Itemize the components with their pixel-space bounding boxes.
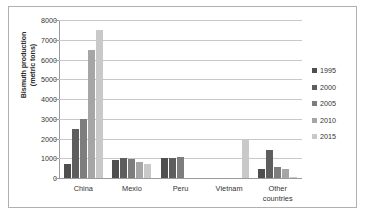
bar: [258, 169, 265, 178]
legend-swatch: [312, 101, 317, 106]
bar: [80, 119, 87, 178]
y-axis-tick-mark: [55, 60, 59, 61]
legend-label: 2010: [320, 116, 336, 125]
x-axis-tick-label: Other: [268, 184, 286, 193]
bar-group: [59, 20, 108, 178]
bar: [266, 150, 273, 178]
legend-swatch: [312, 118, 317, 123]
bar: [64, 164, 71, 178]
bar-group: [205, 20, 254, 178]
y-axis-tick-label: 5000: [17, 75, 57, 84]
bar: [96, 30, 103, 178]
legend-item: 2005: [312, 99, 336, 108]
legend-swatch: [312, 134, 317, 139]
y-axis-tick-label: 0: [17, 174, 57, 183]
legend-label: 2000: [320, 83, 336, 92]
y-axis-tick-label: 1000: [17, 154, 57, 163]
x-axis-tick-label: Peru: [173, 184, 189, 193]
x-axis-tick-label-line2: countries: [263, 194, 293, 203]
legend-swatch: [312, 68, 317, 73]
bar: [128, 159, 135, 178]
y-axis-tick-mark: [55, 40, 59, 41]
legend-label: 1995: [320, 66, 336, 75]
legend-item: 1995: [312, 66, 336, 75]
y-axis-tick-label: 3000: [17, 115, 57, 124]
x-axis-label: China: [59, 184, 108, 194]
x-axis-tick-label: Vietnam: [216, 184, 243, 193]
legend-item: 2015: [312, 132, 336, 141]
bar: [144, 164, 151, 178]
chart-legend: 19952000200520102015: [312, 66, 336, 141]
x-axis-label: Mexio: [108, 184, 157, 194]
bar: [161, 158, 168, 178]
bar-group: [253, 20, 302, 178]
legend-swatch: [312, 85, 317, 90]
bar: [274, 167, 281, 178]
y-axis-tick-mark: [55, 99, 59, 100]
y-axis-tick-mark: [55, 79, 59, 80]
y-axis-tick-mark: [55, 139, 59, 140]
bar-group: [108, 20, 157, 178]
legend-item: 2010: [312, 116, 336, 125]
y-axis-tick-label: 7000: [17, 36, 57, 45]
bar: [88, 50, 95, 178]
bar: [112, 160, 119, 178]
y-axis-tick-label: 8000: [17, 16, 57, 25]
legend-label: 2005: [320, 99, 336, 108]
bar: [290, 177, 297, 178]
y-axis-tick-mark: [55, 158, 59, 159]
x-axis-label: Othercountries: [253, 184, 302, 203]
bar-group: [156, 20, 205, 178]
gridline: [59, 178, 302, 179]
x-axis-label: Vietnam: [205, 184, 254, 194]
bar: [136, 162, 143, 178]
bar: [120, 158, 127, 178]
x-axis-label: Peru: [156, 184, 205, 194]
legend-label: 2015: [320, 132, 336, 141]
y-axis-tick-label: 2000: [17, 135, 57, 144]
legend-item: 2000: [312, 83, 336, 92]
bar: [72, 129, 79, 178]
y-axis-tick-mark: [55, 20, 59, 21]
chart-figure: Bismuth production (metric tons) 1995200…: [0, 0, 365, 221]
plot-area: [59, 20, 302, 178]
bar: [177, 157, 184, 178]
y-axis-tick-mark: [55, 178, 59, 179]
bar: [242, 139, 249, 179]
y-axis-tick-label: 4000: [17, 95, 57, 104]
bar: [282, 169, 289, 178]
y-axis-tick-label: 6000: [17, 56, 57, 65]
bar: [169, 158, 176, 178]
y-axis-tick-mark: [55, 119, 59, 120]
x-axis-tick-label: China: [74, 184, 93, 193]
x-axis-tick-label: Mexio: [122, 184, 142, 193]
